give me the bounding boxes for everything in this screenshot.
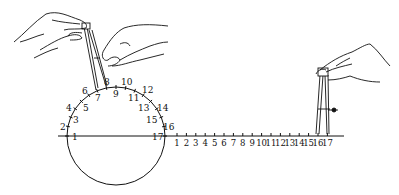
line-point-label: 1 [174, 138, 179, 148]
diagram-canvas: 2468101214161357911131517 12345678910111… [0, 0, 399, 195]
arc-tick [159, 116, 163, 118]
line-labels: 1234567891011121314151617 [174, 138, 333, 148]
circle-point-label: 5 [83, 103, 89, 113]
circle-point-label: 12 [142, 85, 153, 95]
line-point-label: 6 [221, 138, 226, 148]
line-point-label: 17 [322, 138, 333, 148]
line-point-label: 9 [249, 138, 254, 148]
line-point-label: 7 [231, 138, 236, 148]
circle-point-label: 6 [82, 86, 88, 96]
circle-point-label: 1 [72, 132, 78, 142]
circle-point-label: 9 [113, 89, 119, 99]
circle-point-label: 4 [66, 103, 72, 113]
line-point-label: 3 [193, 138, 198, 148]
circle-point-label: 15 [146, 115, 158, 125]
middle-hand-icon [102, 25, 168, 66]
line-point-label: 8 [240, 138, 245, 148]
diagram-svg: 2468101214161357911131517 12345678910111… [0, 0, 399, 195]
arc-tick [66, 126, 70, 127]
circle-point-label: 2 [60, 122, 66, 132]
circle-point-label: 13 [138, 103, 150, 113]
circle-point-label: 14 [157, 103, 169, 113]
circle-point-label: 17 [152, 132, 164, 142]
circle-point-label: 7 [95, 93, 101, 103]
circle-point-label: 11 [128, 93, 139, 103]
dividers-right-icon [316, 68, 338, 134]
circle-point-label: 16 [163, 122, 175, 132]
circle-point-label: 3 [73, 115, 79, 125]
line-point-label: 2 [184, 138, 189, 148]
circle-point-label: 10 [121, 77, 133, 87]
line-point-label: 4 [202, 138, 207, 148]
left-hand-icon [14, 13, 87, 58]
line-point-label: 5 [212, 138, 217, 148]
